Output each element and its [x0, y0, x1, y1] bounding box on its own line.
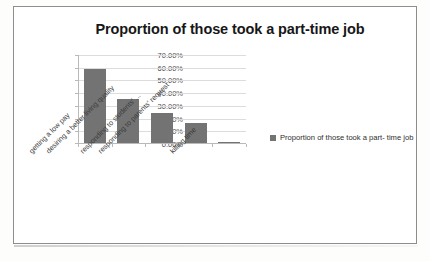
x-tickmark-2: [145, 144, 146, 147]
chart-legend: Proportion of those took a part- time jo…: [270, 133, 420, 143]
bar-killing-time[interactable]: [218, 142, 240, 143]
chart-frame: Proportion of those took a part-time job…: [13, 6, 417, 244]
x-tickmark-5: [246, 144, 247, 147]
y-axis-line: [78, 55, 79, 144]
bar-responding-to-students[interactable]: [151, 113, 173, 144]
gridline-70: [78, 55, 246, 56]
figure-page: Proportion of those took a part-time job…: [0, 0, 430, 261]
legend-label-line1: Proportion of those took a part-: [280, 133, 385, 142]
chart-title: Proportion of those took a part-time job: [44, 21, 416, 37]
x-tickmark-4: [212, 144, 213, 147]
legend-label[interactable]: Proportion of those took a part- time jo…: [280, 133, 420, 143]
legend-label-line2: time job: [387, 133, 414, 142]
page-shadow: [14, 245, 418, 247]
legend-swatch-icon: [270, 135, 276, 141]
